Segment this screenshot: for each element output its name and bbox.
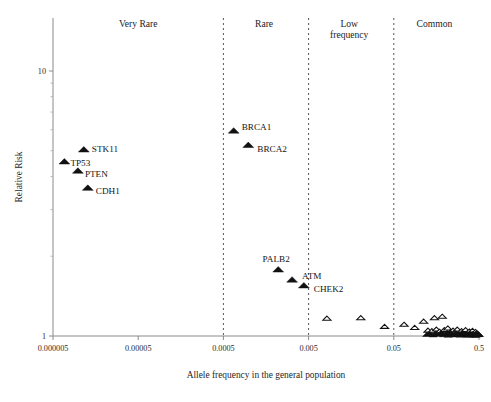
y-tick-label: 1 [42,332,46,341]
y-axis-title: Relative Risk [14,151,24,202]
data-point-open [323,316,331,320]
axis-text-layer: 1100.0000050.000050.00050.0050.050.5Alle… [14,18,484,380]
x-tick-label: 0.00005 [125,344,152,353]
y-tick-label: 10 [38,67,46,76]
x-axis-title: Allele frequency in the general populati… [187,370,346,380]
data-point-filled [298,282,309,287]
data-point-open [438,314,446,318]
data-point-open [357,316,365,320]
category-label: Rare [255,18,273,29]
data-labels-layer: TP53STK11PTENCDH1BRCA1BRCA2PALB2ATMCHEK2 [70,122,344,294]
data-point-open [420,319,428,323]
data-point-filled [78,147,89,152]
category-label: Low [340,18,358,29]
x-tick-label: 0.005 [299,344,317,353]
data-point-filled [273,267,284,272]
figure-caption [0,389,491,402]
data-point-open [400,322,408,326]
data-point-open [381,324,389,328]
data-point-open [430,316,438,320]
data-point-label: BRCA2 [257,144,287,154]
data-point-label: ATM [302,271,321,281]
data-point-filled [243,142,254,147]
data-point-filled [73,168,84,173]
data-point-label: PTEN [85,169,108,179]
x-tick-label: 0.5 [474,344,484,353]
data-point-label: PALB2 [263,254,291,264]
category-label: Very Rare [119,18,158,29]
data-point-label: BRCA1 [242,122,272,132]
x-tick-label: 0.000005 [38,344,69,353]
category-label: frequency [330,29,369,40]
x-tick-label: 0.0005 [212,344,235,353]
data-point-filled [287,277,298,282]
figure-container: TP53STK11PTENCDH1BRCA1BRCA2PALB2ATMCHEK2… [0,0,491,402]
category-label: Common [417,18,453,29]
data-markers-layer [59,128,483,338]
axes-layer [49,18,479,340]
data-point-label: TP53 [70,158,90,168]
scatter-plot: TP53STK11PTENCDH1BRCA1BRCA2PALB2ATMCHEK2… [0,0,491,402]
data-point-label: STK11 [92,144,119,154]
x-tick-label: 0.05 [387,344,401,353]
data-point-open [411,325,419,329]
data-point-label: CHEK2 [314,284,344,294]
data-point-filled [59,159,70,164]
data-point-filled [228,128,239,133]
category-separator-layer [223,18,393,336]
data-point-filled [82,185,93,190]
data-point-label: CDH1 [96,186,120,196]
